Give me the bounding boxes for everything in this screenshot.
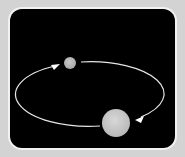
orbit-path xyxy=(16,62,164,127)
arrow-lower-right-icon xyxy=(135,116,144,123)
small-body xyxy=(64,57,76,69)
large-body xyxy=(102,109,130,137)
orbit-diagram xyxy=(0,0,185,157)
arrow-upper-left-icon xyxy=(51,64,60,70)
